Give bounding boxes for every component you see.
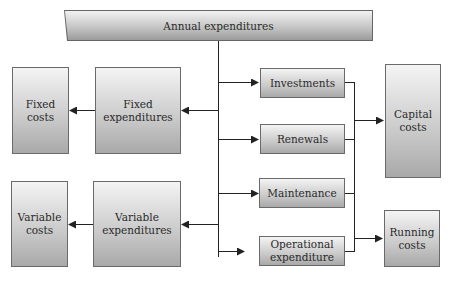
operational-expenditure-label-line2: expenditure xyxy=(270,251,334,264)
capital-costs-box: Capitalcosts xyxy=(385,64,441,178)
running-costs-label-line1: Running xyxy=(389,226,434,239)
renewals-label: Renewals xyxy=(277,133,328,146)
fixed-costs-label-line1: Fixed xyxy=(26,98,56,111)
fixed-costs-box: Fixedcosts xyxy=(12,67,69,154)
fixed-expenditures-label-line2: expenditures xyxy=(103,111,173,124)
maintenance-label: Maintenance xyxy=(267,187,336,200)
operational-expenditure-label-line1: Operational xyxy=(270,238,334,251)
running-costs-box: Runningcosts xyxy=(384,210,440,267)
operational-expenditure-box: Operationalexpenditure xyxy=(259,236,345,266)
capital-costs-label-line2: costs xyxy=(394,121,432,134)
variable-expenditures-label-line1: Variable xyxy=(102,211,172,224)
fixed-expenditures-label-line1: Fixed xyxy=(103,98,173,111)
investments-label: Investments xyxy=(270,77,335,90)
variable-expenditures-box: Variableexpenditures xyxy=(93,181,181,267)
variable-expenditures-label-line2: expenditures xyxy=(102,224,172,237)
maintenance-box: Maintenance xyxy=(259,178,345,208)
investments-box: Investments xyxy=(260,68,345,98)
renewals-box: Renewals xyxy=(260,124,345,154)
variable-costs-label-line1: Variable xyxy=(18,211,62,224)
variable-costs-label-line2: costs xyxy=(18,224,62,237)
annual-expenditures-label: Annual expenditures xyxy=(163,20,273,32)
running-costs-label-line2: costs xyxy=(389,239,434,252)
annual-expenditures-box: Annual expenditures xyxy=(64,10,373,41)
variable-costs-box: Variablecosts xyxy=(11,181,68,267)
fixed-costs-label-line2: costs xyxy=(26,111,56,124)
fixed-expenditures-box: Fixedexpenditures xyxy=(95,67,181,154)
capital-costs-label-line1: Capital xyxy=(394,108,432,121)
